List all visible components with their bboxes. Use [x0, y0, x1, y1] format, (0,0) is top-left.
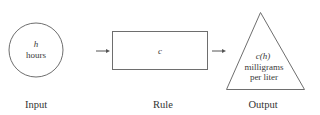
input-unit: hours [26, 50, 46, 60]
rule-caption: Rule [153, 99, 173, 110]
rule-node: c [113, 32, 208, 70]
output-unit-line1: milligrams [245, 62, 284, 72]
output-expression: c(h) [256, 51, 271, 61]
output-unit-line2: per liter [250, 72, 278, 82]
function-diagram: h hours c c(h) milligrams per liter Inpu… [0, 0, 320, 115]
arrow-head-icon [106, 49, 110, 53]
input-node: h hours [9, 23, 63, 77]
rule-function-name: c [158, 46, 162, 56]
output-node: c(h) milligrams per liter [227, 13, 305, 90]
input-variable: h [34, 39, 39, 49]
arrow-input-to-rule [96, 49, 110, 53]
arrow-head-icon [222, 49, 226, 53]
output-caption: Output [248, 99, 277, 110]
input-caption: Input [25, 99, 47, 110]
arrow-rule-to-output [212, 49, 226, 53]
